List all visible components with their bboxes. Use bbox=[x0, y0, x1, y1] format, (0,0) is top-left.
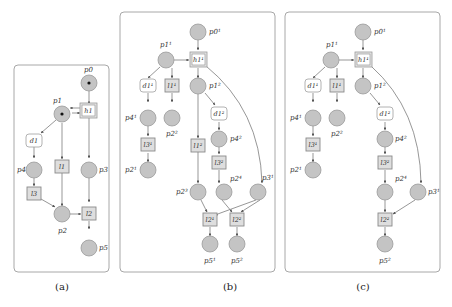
svg-text:d1²: d1² bbox=[214, 110, 225, 118]
svg-text:h1: h1 bbox=[84, 107, 92, 115]
svg-text:p2²: p2² bbox=[166, 130, 178, 138]
caption-b: (b) bbox=[223, 281, 237, 292]
svg-text:l2²: l2² bbox=[233, 216, 242, 224]
transition-l1-1: l1¹ bbox=[165, 79, 179, 92]
svg-text:p1²: p1² bbox=[209, 82, 221, 90]
svg-text:p2³: p2³ bbox=[176, 188, 188, 196]
svg-text:p2⁴: p2⁴ bbox=[395, 175, 407, 183]
petri-net-figure: p0 p1 p4 p3 p2 p5 h1 bbox=[0, 0, 452, 307]
transition-l3-1: l3¹ bbox=[306, 138, 320, 151]
svg-text:p4¹: p4¹ bbox=[125, 114, 137, 122]
transition-l3-1: l3¹ bbox=[141, 138, 155, 151]
transition-d1: d1 bbox=[26, 134, 42, 147]
svg-text:l3²: l3² bbox=[381, 159, 390, 167]
svg-text:l2²: l2² bbox=[381, 216, 390, 224]
svg-text:l1²: l1² bbox=[194, 142, 203, 150]
svg-text:p5²: p5² bbox=[379, 257, 391, 265]
transition-l3: l3 bbox=[27, 187, 41, 200]
svg-text:p0¹: p0¹ bbox=[374, 28, 386, 36]
svg-text:l3¹: l3¹ bbox=[144, 141, 153, 149]
transition-h1: h1 bbox=[80, 103, 97, 118]
transition-l2: l2 bbox=[82, 207, 96, 220]
caption-a: (a) bbox=[55, 281, 69, 292]
svg-text:p2⁴: p2⁴ bbox=[230, 175, 242, 183]
svg-text:l1¹: l1¹ bbox=[168, 82, 177, 90]
svg-text:p0¹: p0¹ bbox=[209, 28, 221, 36]
svg-text:d1¹: d1¹ bbox=[143, 82, 154, 90]
svg-text:p3: p3 bbox=[99, 166, 108, 174]
svg-text:p1¹: p1¹ bbox=[326, 41, 338, 49]
panel-b: p0¹ p1¹ p1² p4¹ p2² p4² p2¹ p2³ bbox=[120, 12, 275, 292]
panel-c: p0¹ p1¹ p1² p4¹ p2² p4² p2¹ p2⁴ bbox=[285, 12, 440, 292]
svg-text:l2: l2 bbox=[86, 210, 92, 218]
svg-text:p4¹: p4¹ bbox=[290, 114, 302, 122]
transition-h1-1: h1¹ bbox=[190, 52, 207, 67]
svg-text:p3¹: p3¹ bbox=[428, 188, 440, 196]
svg-text:p0: p0 bbox=[84, 66, 93, 74]
svg-text:p5²: p5² bbox=[231, 257, 243, 265]
svg-text:d1: d1 bbox=[30, 137, 38, 145]
svg-text:l3¹: l3¹ bbox=[309, 141, 318, 149]
svg-text:l2¹: l2¹ bbox=[206, 216, 215, 224]
transition-d1-2: d1² bbox=[377, 107, 393, 120]
svg-text:d1²: d1² bbox=[380, 110, 391, 118]
svg-text:h1¹: h1¹ bbox=[193, 56, 204, 64]
svg-text:p1²: p1² bbox=[374, 82, 386, 90]
svg-text:p4²: p4² bbox=[395, 135, 407, 143]
svg-text:p2¹: p2¹ bbox=[290, 166, 302, 174]
token-icon bbox=[60, 112, 63, 115]
svg-text:d1¹: d1¹ bbox=[308, 82, 319, 90]
place-p2-2: p2² bbox=[329, 110, 345, 138]
token-icon bbox=[87, 81, 90, 84]
transition-l2-1: l2¹ bbox=[203, 213, 217, 226]
svg-text:p5: p5 bbox=[99, 244, 108, 252]
panel-a: p0 p1 p4 p3 p2 p5 h1 bbox=[14, 65, 109, 292]
svg-text:p5¹: p5¹ bbox=[204, 257, 216, 265]
caption-c: (c) bbox=[356, 281, 370, 292]
svg-text:p2²: p2² bbox=[331, 130, 343, 138]
place-p1-1: p1¹ bbox=[158, 41, 174, 68]
svg-text:p1¹: p1¹ bbox=[160, 41, 172, 49]
transition-l3-2: l3² bbox=[378, 156, 392, 169]
svg-text:l3²: l3² bbox=[215, 159, 224, 167]
svg-text:p3¹: p3¹ bbox=[262, 174, 274, 182]
svg-text:p2: p2 bbox=[58, 227, 67, 235]
transition-h1-1: h1¹ bbox=[355, 52, 372, 67]
transition-l2-2: l2² bbox=[378, 213, 392, 226]
svg-text:p1: p1 bbox=[53, 97, 62, 105]
transition-l1: l1 bbox=[55, 160, 69, 173]
transition-d1-2: d1² bbox=[211, 107, 227, 120]
svg-text:p2¹: p2¹ bbox=[125, 166, 137, 174]
place-p1-1: p1¹ bbox=[323, 41, 339, 68]
transition-l2-2: l2² bbox=[230, 213, 244, 226]
transition-l1-2: l1² bbox=[191, 139, 205, 152]
transition-l1-1: l1¹ bbox=[330, 79, 344, 92]
svg-text:l1: l1 bbox=[59, 163, 65, 171]
svg-text:l3: l3 bbox=[31, 190, 37, 198]
svg-text:p4²: p4² bbox=[230, 135, 242, 143]
transition-d1-1: d1¹ bbox=[305, 79, 321, 92]
transition-l3-2: l3² bbox=[212, 156, 226, 169]
svg-text:p4: p4 bbox=[17, 166, 26, 174]
svg-text:l1¹: l1¹ bbox=[333, 82, 342, 90]
place-p2-2: p2² bbox=[164, 110, 180, 138]
transition-d1-1: d1¹ bbox=[140, 79, 156, 92]
svg-text:h1¹: h1¹ bbox=[358, 56, 369, 64]
